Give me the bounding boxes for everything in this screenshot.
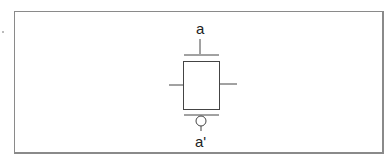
channel-box bbox=[184, 62, 220, 110]
top-gate-label: a bbox=[196, 21, 204, 36]
inversion-bubble bbox=[196, 116, 206, 126]
bottom-gate-label: a' bbox=[195, 134, 206, 149]
